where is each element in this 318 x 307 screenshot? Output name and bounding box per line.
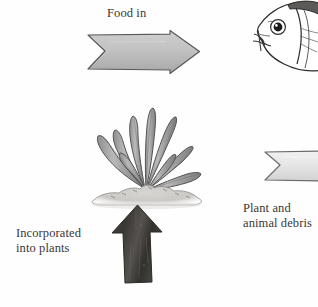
- food-in-arrow: [86, 29, 202, 75]
- debris-arrow: [263, 148, 318, 186]
- label-food-in: Food in: [107, 6, 146, 21]
- incorporated-arrow: [108, 203, 170, 285]
- fish-head: [252, 0, 318, 78]
- diagram-canvas: Food in Incorporated into plants Plant a…: [0, 0, 318, 307]
- label-incorporated-into-plants: Incorporated into plants: [16, 226, 81, 257]
- aquatic-plant: [78, 96, 214, 208]
- label-plant-and-animal-debris: Plant and animal debris: [243, 201, 312, 232]
